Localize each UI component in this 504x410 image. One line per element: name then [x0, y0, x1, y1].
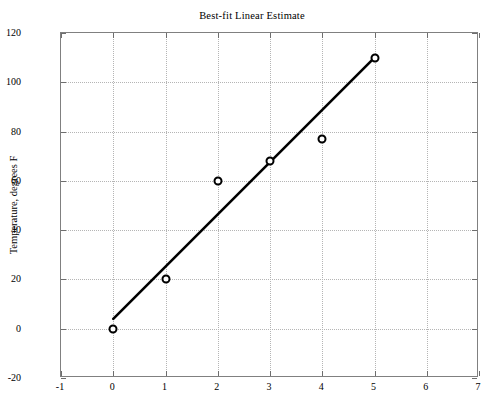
x-tick-label: 5 [371, 381, 376, 392]
data-point-marker [266, 157, 275, 166]
x-tick-label: 2 [214, 381, 219, 392]
y-tick-label: 80 [11, 125, 21, 136]
data-point-marker [109, 324, 118, 333]
x-axis-tick [479, 33, 480, 38]
plot-area [60, 32, 478, 377]
x-tick-label: -1 [56, 381, 64, 392]
y-tick-label: 100 [6, 76, 21, 87]
x-tick-label: 4 [319, 381, 324, 392]
x-tick-label: 3 [267, 381, 272, 392]
x-axis-tick [479, 371, 480, 376]
x-tick-label: 1 [162, 381, 167, 392]
data-point-marker [318, 134, 327, 143]
y-axis-tick [61, 378, 66, 379]
data-point-marker [213, 176, 222, 185]
y-axis-tick [472, 378, 477, 379]
figure-canvas: Best-fit Linear Estimate Temperature, de… [0, 0, 504, 410]
data-point-marker [161, 275, 170, 284]
y-tick-label: 60 [11, 174, 21, 185]
y-tick-label: 40 [11, 224, 21, 235]
y-axis-label: Temperature, degrees F [8, 156, 19, 255]
y-tick-label: 0 [16, 322, 21, 333]
x-tick-label: 6 [423, 381, 428, 392]
y-tick-label: 120 [6, 27, 21, 38]
y-tick-label: 20 [11, 273, 21, 284]
best-fit-line [61, 33, 479, 378]
y-tick-label: -20 [8, 372, 21, 383]
data-point-marker [370, 53, 379, 62]
x-tick-label: 7 [476, 381, 481, 392]
chart-title: Best-fit Linear Estimate [0, 10, 504, 21]
x-tick-label: 0 [110, 381, 115, 392]
